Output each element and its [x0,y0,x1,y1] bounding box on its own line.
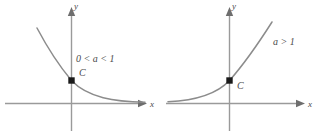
right-point-c-label: C [237,80,244,91]
graphs-canvas: y x C 0 < a < 1 y x C a [0,0,323,134]
left-x-axis-arrowhead [138,100,147,107]
exponential-decay-panel: y x C 0 < a < 1 [5,1,154,131]
right-y-axis [226,7,233,131]
right-x-axis-label: x [307,99,312,109]
exponential-growth-panel: y x C a > 1 [166,1,312,131]
right-condition-label: a > 1 [273,36,295,47]
left-x-axis-label: x [149,99,154,109]
right-x-axis [166,100,305,107]
left-point-c-label: C [79,67,86,78]
left-y-axis [68,7,75,131]
left-y-axis-label: y [73,1,78,11]
exponential-graphs-figure: y x C 0 < a < 1 y x C a [0,0,323,134]
right-x-axis-arrowhead [296,100,305,107]
exponential-decay-curve [37,28,145,102]
left-point-c-dot [68,77,74,83]
right-point-c-dot [226,77,232,83]
right-y-axis-label: y [231,1,236,11]
left-condition-label: 0 < a < 1 [76,53,115,64]
exponential-growth-curve [168,22,272,102]
